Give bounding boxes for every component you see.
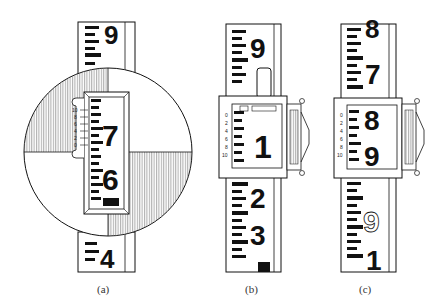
vernier-label: 0 xyxy=(340,112,343,118)
window-numeral: 8 xyxy=(364,105,380,136)
rod-numeral: 4 xyxy=(100,244,115,274)
window-numeral: 7 xyxy=(102,119,119,152)
vernier-label: 10 xyxy=(337,152,343,158)
vernier-label: 6 xyxy=(340,136,343,142)
window-numeral: 1 xyxy=(254,129,272,165)
vernier-label: 2 xyxy=(225,120,228,126)
vernier-label: 6 xyxy=(225,136,228,142)
rod-numeral-outlined: 9 xyxy=(363,205,380,238)
vernier-label: 2 xyxy=(340,120,343,126)
rod-numeral: 2 xyxy=(250,183,266,214)
vernier-label: 6 xyxy=(74,121,77,127)
vernier-label: 4 xyxy=(225,128,228,134)
rod-numeral: 9 xyxy=(250,33,266,64)
vernier-label: 4 xyxy=(340,128,343,134)
vernier-label: 2 xyxy=(74,135,77,141)
vernier-label: 0 xyxy=(74,142,77,148)
figure-b: 9 2 3 1 0 2 4 6 8 10 xyxy=(219,24,309,272)
vernier-label: 8 xyxy=(74,114,77,120)
window-numeral: 9 xyxy=(364,141,380,172)
vernier-label: 8 xyxy=(225,144,228,150)
caption-c: (c) xyxy=(359,283,371,295)
caption-a: (a) xyxy=(97,283,109,295)
figure-a: 9 4 7 xyxy=(20,20,198,274)
figure-c: 8 7 9 1 8 9 0 2 4 6 8 10 xyxy=(334,14,424,276)
caption-b: (b) xyxy=(245,283,258,295)
window-numeral: 6 xyxy=(102,163,119,196)
vernier-label: 4 xyxy=(74,128,77,134)
vernier-label: 0 xyxy=(225,112,228,118)
leveling-rod-diagram: 9 4 7 xyxy=(0,0,432,303)
rod-numeral: 3 xyxy=(250,220,266,251)
vernier-label: 10 xyxy=(72,107,78,113)
vernier-label: 10 xyxy=(222,152,228,158)
rod-numeral: 1 xyxy=(366,245,382,276)
rod-numeral: 9 xyxy=(104,20,118,50)
rod-numeral: 8 xyxy=(365,14,379,44)
rod-numeral: 7 xyxy=(365,59,381,90)
vernier-label: 8 xyxy=(340,144,343,150)
